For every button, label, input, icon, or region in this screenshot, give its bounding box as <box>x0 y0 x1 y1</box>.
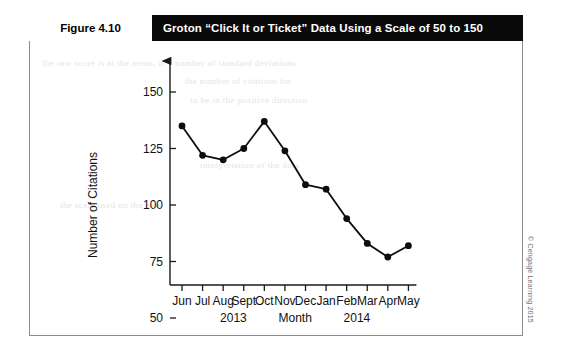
y-tick-label: 125 <box>143 142 163 156</box>
x-axis-ticks: JunJulAugSeptOctNovDecJanFebMarAprMay <box>172 285 419 308</box>
data-point <box>405 242 412 249</box>
figure-title: Groton “Click It or Ticket” Data Using a… <box>152 15 523 41</box>
x-tick-label: May <box>397 294 420 308</box>
x-tick-label: Feb <box>336 294 357 308</box>
y-axis-ticks: 5075100125150 <box>143 85 176 325</box>
data-point <box>323 186 330 193</box>
y-tick-label: 100 <box>143 198 163 212</box>
y-axis-title: Number of Citations <box>86 152 100 258</box>
x-tick-label: Apr <box>378 294 397 308</box>
x-tick-label: Jun <box>172 294 191 308</box>
x-tick-label: Jul <box>195 294 210 308</box>
line-chart: 5075100125150 JunJulAugSeptOctNovDecJanF… <box>29 41 523 336</box>
x-axis-title: Month <box>279 311 312 325</box>
x-tick-label: Sept <box>231 294 256 308</box>
figure-header: Figure 4.10 Groton “Click It or Ticket” … <box>29 15 523 41</box>
data-point <box>384 254 391 261</box>
x-tick-label: Oct <box>255 294 274 308</box>
y-tick-label: 50 <box>150 311 164 325</box>
x-tick-label: Jan <box>316 294 335 308</box>
data-point <box>240 145 247 152</box>
data-series <box>179 118 412 260</box>
y-tick-label: 150 <box>143 85 163 99</box>
x-axis-group-2013: 2013 <box>220 311 247 325</box>
series-polyline <box>182 121 408 257</box>
data-point <box>179 123 186 130</box>
data-point <box>261 118 268 125</box>
data-point <box>343 215 350 222</box>
x-axis-group-2014: 2014 <box>344 311 371 325</box>
data-point <box>220 156 227 163</box>
chart-plot-area: 5075100125150 JunJulAugSeptOctNovDecJanF… <box>29 41 523 336</box>
figure-number: Figure 4.10 <box>29 15 152 41</box>
copyright-notice: © Cengage Learning 2015 <box>527 236 534 323</box>
data-point <box>282 147 289 154</box>
data-point <box>364 240 371 247</box>
y-tick-label: 75 <box>150 255 164 269</box>
data-point <box>199 152 206 159</box>
x-tick-label: Dec <box>295 294 316 308</box>
x-tick-label: Nov <box>274 294 295 308</box>
x-tick-label: Mar <box>357 294 378 308</box>
data-point <box>302 181 309 188</box>
